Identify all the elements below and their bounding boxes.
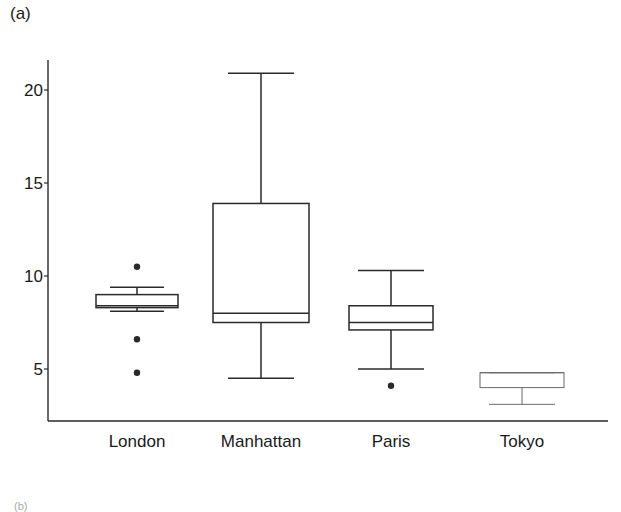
iqr-box <box>349 306 433 330</box>
y-tick-label: 15 <box>24 174 43 193</box>
y-tick-label: 20 <box>24 81 43 100</box>
y-tick-label: 10 <box>24 267 43 286</box>
category-label: Manhattan <box>221 432 301 451</box>
box-manhattan <box>213 73 309 378</box>
iqr-box <box>480 373 564 388</box>
outlier-point <box>388 383 394 389</box>
category-label: Paris <box>372 432 411 451</box>
outlier-point <box>134 370 140 376</box>
outlier-point <box>134 336 140 342</box>
iqr-box <box>213 203 309 322</box>
category-label: Tokyo <box>500 432 544 451</box>
outlier-point <box>134 264 140 270</box>
box-london <box>96 264 178 376</box>
box-paris <box>349 270 433 389</box>
box-tokyo <box>480 373 564 405</box>
category-label: London <box>109 432 166 451</box>
y-tick-label: 5 <box>34 360 43 379</box>
